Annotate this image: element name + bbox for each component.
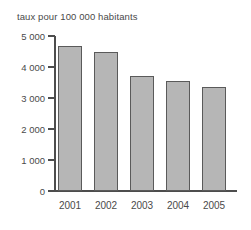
y-axis-tick-label: 1 000 (21, 155, 45, 166)
y-axis-tick (48, 97, 55, 99)
y-axis-tick (48, 190, 55, 192)
x-axis-tick-label: 2004 (158, 200, 198, 211)
y-axis-tick-label: 0 (40, 186, 45, 197)
y-axis-tick-label: 3 000 (21, 93, 45, 104)
y-axis-tick-label: 2 000 (21, 124, 45, 135)
bar (130, 76, 154, 191)
y-axis-tick-label: 5 000 (21, 31, 45, 42)
bar (94, 52, 118, 191)
y-axis-tick (48, 66, 55, 68)
bar (58, 46, 82, 191)
y-axis-tick-label: 4 000 (21, 62, 45, 73)
bar (166, 81, 190, 191)
x-axis-tick-label: 2001 (50, 200, 90, 211)
bar (202, 87, 226, 191)
x-axis-tick-label: 2003 (122, 200, 162, 211)
bar-chart: taux pour 100 000 habitants 01 0002 0003… (0, 0, 251, 230)
y-axis-tick (48, 128, 55, 130)
y-axis-tick (48, 159, 55, 161)
plot-area: 01 0002 0003 0004 0005 000 2001200220032… (0, 0, 251, 230)
x-axis-tick-label: 2002 (86, 200, 126, 211)
y-axis-line (54, 36, 56, 192)
x-axis-tick-label: 2005 (194, 200, 234, 211)
y-axis-tick (48, 35, 55, 37)
